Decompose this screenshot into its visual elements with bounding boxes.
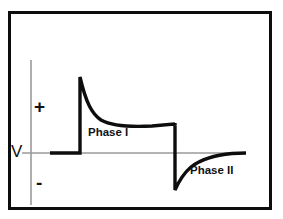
phase-two-label: Phase II xyxy=(190,165,233,177)
negative-polarity-label: - xyxy=(36,173,42,192)
waveform-figure: V + - Phase I Phase II xyxy=(0,0,283,219)
figure-border xyxy=(10,13,271,209)
phase-one-label: Phase I xyxy=(88,127,128,139)
voltage-axis-label: V xyxy=(11,143,22,160)
positive-polarity-label: + xyxy=(34,97,45,116)
